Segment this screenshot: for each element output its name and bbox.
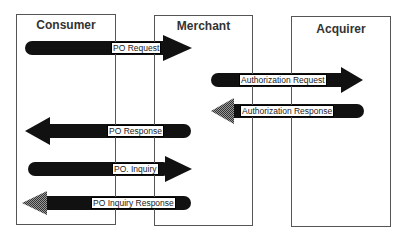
label-po-response: PO Response — [107, 125, 164, 137]
label-po-request: PO Request — [111, 42, 161, 54]
label-authorization-request: Authorization Request — [239, 74, 327, 86]
message-arrows — [0, 0, 407, 239]
label-po-inquiry-response: PO Inquiry Response — [91, 197, 176, 209]
label-po-inquiry: PO. Inquiry — [112, 163, 159, 175]
arrow-po-inquiry — [28, 156, 192, 182]
label-authorization-response: Authorization Response — [240, 105, 334, 117]
arrow-po-request — [25, 35, 192, 61]
